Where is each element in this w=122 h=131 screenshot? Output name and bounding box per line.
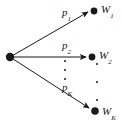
edge-branch-1 [10, 12, 88, 57]
target-node-k [91, 107, 99, 115]
ellipsis-dot [96, 99, 98, 101]
node-label-w1-base: W [101, 3, 110, 15]
node-label-w1-subscript: 1 [110, 12, 114, 20]
node-label-w2-subscript: 2 [108, 58, 112, 66]
edge-ellipsis-icon [64, 60, 66, 80]
target-node-1 [91, 8, 98, 15]
node-label-wk-subscript: K [111, 114, 116, 122]
edge-branch-k [10, 57, 89, 108]
edge-label-pk: pK [62, 82, 72, 96]
ellipsis-dot [64, 78, 66, 80]
ellipsis-dot [64, 69, 66, 71]
probability-branching-diagram: p1 p2 pK W1 W2 WK [0, 0, 122, 131]
edge-label-p1-subscript: 1 [68, 15, 72, 23]
node-ellipsis-icon [96, 63, 98, 101]
target-node-2 [89, 54, 96, 61]
edge-label-pk-subscript: K [68, 90, 73, 98]
node-label-w2-base: W [99, 49, 108, 61]
edge-label-p1-base: p [62, 6, 68, 18]
source-node [6, 53, 14, 61]
edge-label-p2-subscript: 2 [68, 48, 72, 56]
edge-label-p2: p2 [62, 40, 71, 54]
node-label-wk: WK [102, 106, 116, 120]
edge-label-pk-base: p [62, 81, 68, 93]
edge-label-p1: p1 [62, 7, 71, 21]
node-label-w2: W2 [99, 50, 112, 64]
ellipsis-dot [64, 60, 66, 62]
ellipsis-dot [96, 63, 98, 65]
node-label-w1: W1 [101, 4, 114, 18]
ellipsis-dot [96, 81, 98, 83]
edge-label-p2-base: p [62, 39, 68, 51]
node-label-wk-base: W [102, 105, 111, 117]
